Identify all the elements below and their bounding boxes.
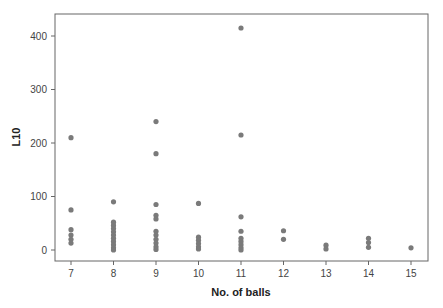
data-point xyxy=(366,240,371,245)
x-tick-label: 11 xyxy=(236,268,247,279)
data-point xyxy=(366,245,371,250)
y-tick-label: 300 xyxy=(30,84,47,95)
data-point xyxy=(238,247,243,252)
x-tick-label: 14 xyxy=(363,268,375,279)
data-point xyxy=(153,119,158,124)
x-tick-label: 8 xyxy=(111,268,117,279)
y-tick-label: 400 xyxy=(30,31,47,42)
data-points xyxy=(68,25,413,252)
data-point xyxy=(281,228,286,233)
data-point xyxy=(153,151,158,156)
data-point xyxy=(68,227,73,232)
data-point xyxy=(68,240,73,245)
y-axis: 0100200300400 xyxy=(30,31,55,256)
data-point xyxy=(68,135,73,140)
x-tick-label: 15 xyxy=(405,268,417,279)
x-tick-label: 9 xyxy=(153,268,159,279)
x-tick-label: 7 xyxy=(68,268,74,279)
data-point xyxy=(238,229,243,234)
x-axis-title: No. of balls xyxy=(211,286,270,298)
data-point xyxy=(238,25,243,30)
scatter-chart: 0100200300400 789101112131415 No. of bal… xyxy=(0,0,443,308)
y-tick-label: 100 xyxy=(30,191,47,202)
data-point xyxy=(111,199,116,204)
data-point xyxy=(196,201,201,206)
data-point xyxy=(281,237,286,242)
x-tick-label: 10 xyxy=(193,268,205,279)
y-tick-label: 0 xyxy=(41,245,47,256)
data-point xyxy=(68,207,73,212)
y-axis-title: L10 xyxy=(10,128,22,147)
x-tick-label: 13 xyxy=(320,268,332,279)
data-point xyxy=(153,202,158,207)
data-point xyxy=(323,246,328,251)
y-tick-label: 200 xyxy=(30,138,47,149)
x-axis: 789101112131415 xyxy=(68,261,417,279)
data-point xyxy=(408,245,413,250)
data-point xyxy=(153,247,158,252)
data-point xyxy=(238,132,243,137)
data-point xyxy=(238,214,243,219)
data-point xyxy=(111,247,116,252)
x-tick-label: 12 xyxy=(278,268,290,279)
data-point xyxy=(153,216,158,221)
data-point xyxy=(196,246,201,251)
